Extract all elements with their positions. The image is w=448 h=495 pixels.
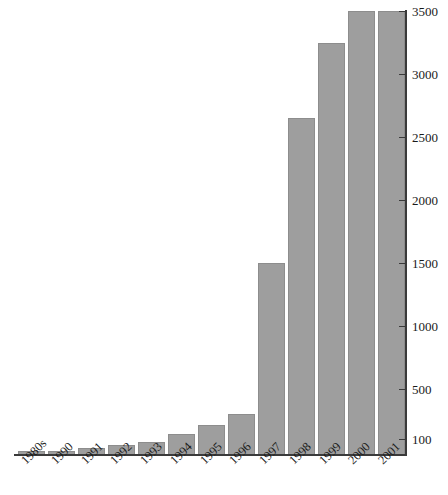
y-axis-tick-label: 3500 — [412, 5, 438, 18]
y-axis-tick — [399, 74, 406, 75]
y-axis-tick — [399, 326, 406, 327]
y-axis-tick — [399, 389, 406, 390]
bar-slot — [348, 0, 375, 455]
bar-slot — [48, 0, 75, 455]
bar-slot — [258, 0, 285, 455]
y-axis-tick-label: 2000 — [412, 194, 438, 207]
bar-slot — [168, 0, 195, 455]
plot-area — [18, 0, 405, 455]
bar-slot — [228, 0, 255, 455]
y-axis-tick — [399, 263, 406, 264]
bar-slot — [198, 0, 225, 455]
bar-slot — [108, 0, 135, 455]
y-axis-tick-label: 1500 — [412, 257, 438, 270]
y-axis-tick — [399, 439, 406, 440]
bar-chart: 100500100015002000250030003500 1980s1990… — [0, 0, 448, 495]
bar-slot — [288, 0, 315, 455]
bar-2000 — [348, 11, 375, 455]
bar-slot — [318, 0, 345, 455]
y-axis-tick — [399, 11, 406, 12]
bar-1998 — [288, 118, 315, 455]
y-axis-tick-label: 3000 — [412, 68, 438, 81]
bar-slot — [78, 0, 105, 455]
bar-series — [18, 0, 405, 455]
y-axis-tick-label: 1000 — [412, 320, 438, 333]
y-axis-tick — [399, 200, 406, 201]
bar-slot — [138, 0, 165, 455]
x-axis-tick-labels: 1980s19901991199219931994199519961997199… — [18, 458, 405, 495]
bar-1997 — [258, 263, 285, 455]
y-axis-tick — [399, 137, 406, 138]
bar-1999 — [318, 43, 345, 456]
y-axis-tick-label: 100 — [412, 433, 432, 446]
y-axis-tick-label: 2500 — [412, 131, 438, 144]
bar-slot — [378, 0, 405, 455]
bar-slot — [18, 0, 45, 455]
y-axis-tick-label: 500 — [412, 383, 432, 396]
